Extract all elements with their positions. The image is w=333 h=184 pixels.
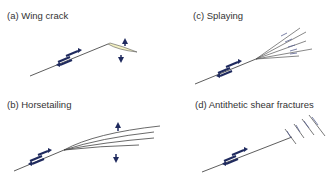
horsetail-splays <box>64 126 160 150</box>
shear-sense-arrows-icon <box>28 148 52 166</box>
panel-c-splaying <box>195 28 312 84</box>
panel-d-antithetic-shear <box>202 115 325 172</box>
panel-a-wing-crack <box>30 41 137 76</box>
wing-crack-shape <box>108 43 137 52</box>
shear-sense-arrows-icon <box>56 48 82 67</box>
panel-b-horsetailing <box>14 125 160 171</box>
shear-sense-arrows-icon <box>216 59 242 78</box>
splay-faults <box>256 28 312 59</box>
opening-arrows-icon <box>121 41 125 60</box>
shear-sense-arrows-icon <box>222 147 248 166</box>
antithetic-fractures <box>285 115 325 144</box>
main-fault-line <box>30 44 108 76</box>
opening-arrows-icon <box>116 125 118 160</box>
main-fault-line <box>202 137 292 172</box>
main-fault-line <box>195 59 256 84</box>
fault-diagram <box>0 0 333 184</box>
